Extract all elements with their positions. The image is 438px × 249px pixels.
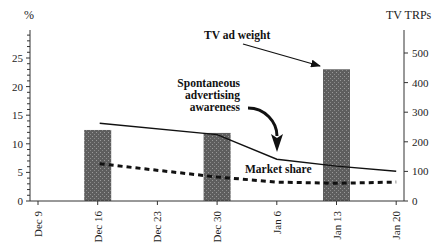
right-tick-label: 500 <box>412 47 429 59</box>
x-tick-label: Jan 20 <box>390 211 402 240</box>
right-axis-unit: TV TRPs <box>386 8 432 22</box>
right-tick-label: 300 <box>412 106 429 118</box>
left-tick-label: 10 <box>12 138 24 150</box>
chart-canvas: % TV TRPs 05101520250100200300400500Dec … <box>0 0 438 249</box>
arrow-tv-ad-weight <box>243 44 320 66</box>
left-tick-label: 0 <box>18 195 24 207</box>
x-tick-label: Jan 13 <box>331 211 343 240</box>
annotation-market-share: Market share <box>245 163 312 175</box>
right-tick-label: 200 <box>412 136 429 148</box>
x-tick-label: Dec 30 <box>211 211 223 243</box>
left-tick-label: 25 <box>12 52 24 64</box>
left-axis-unit: % <box>24 8 34 22</box>
annotation-tv-ad-weight: TV ad weight <box>204 29 270 42</box>
x-tick-label: Dec 9 <box>32 211 44 237</box>
right-tick-label: 100 <box>412 165 429 177</box>
left-tick-label: 5 <box>18 166 24 178</box>
x-tick-label: Dec 16 <box>92 211 104 243</box>
x-tick-label: Jan 6 <box>271 211 283 234</box>
bar-dec-16 <box>84 130 111 201</box>
right-tick-label: 400 <box>412 77 429 89</box>
annotation-awareness-line3: awareness <box>190 101 241 113</box>
left-tick-label: 20 <box>12 81 24 93</box>
bar-jan-13 <box>323 69 350 201</box>
arrow-awareness-head <box>271 134 283 152</box>
arrow-awareness <box>248 108 277 136</box>
left-tick-label: 15 <box>12 109 24 121</box>
right-tick-label: 0 <box>412 195 418 207</box>
bar-dec-30 <box>204 133 231 201</box>
x-tick-label: Dec 23 <box>151 211 163 243</box>
